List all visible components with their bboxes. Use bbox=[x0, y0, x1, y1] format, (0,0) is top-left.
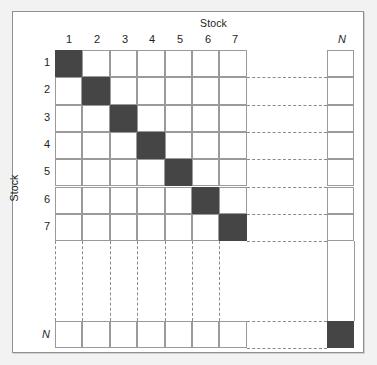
row-tick-3: 3 bbox=[26, 111, 50, 123]
column-axis-title: Stock bbox=[0, 17, 377, 29]
row-tick-6: 6 bbox=[26, 193, 50, 205]
column-tick-3: 3 bbox=[111, 33, 139, 45]
column-tick-7: 7 bbox=[221, 33, 249, 45]
row-axis-title-label: Stock bbox=[8, 175, 20, 202]
row-tick-5: 5 bbox=[26, 165, 50, 177]
column-tick-5: 5 bbox=[166, 33, 194, 45]
column-tick-4: 4 bbox=[138, 33, 166, 45]
row-tick-4: 4 bbox=[26, 138, 50, 150]
figure-frame bbox=[12, 11, 364, 353]
row-tick-7: 7 bbox=[26, 220, 50, 232]
column-tick-2: 2 bbox=[83, 33, 111, 45]
row-tick-1: 1 bbox=[26, 56, 50, 68]
column-tick-N: N bbox=[328, 33, 356, 45]
column-axis-title-label: Stock bbox=[200, 17, 227, 29]
row-tick-2: 2 bbox=[26, 83, 50, 95]
column-tick-1: 1 bbox=[55, 33, 83, 45]
row-axis-title: Stock bbox=[8, 158, 20, 218]
row-tick-N: N bbox=[26, 328, 50, 340]
column-tick-6: 6 bbox=[194, 33, 222, 45]
